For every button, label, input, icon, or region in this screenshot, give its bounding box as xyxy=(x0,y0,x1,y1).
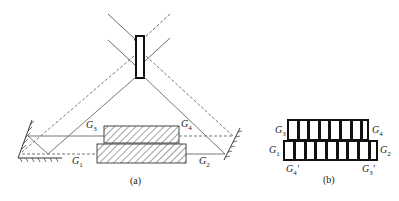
label-g3-a: G3 xyxy=(86,120,97,133)
right-mirror-hatching xyxy=(226,131,242,157)
outgoing-ray-1 xyxy=(144,14,170,38)
label-g1-a: G1 xyxy=(72,156,83,169)
interferometer-diagram xyxy=(0,0,399,201)
label-g4-b: G4 xyxy=(372,125,383,138)
left-mirror-1-hatching xyxy=(22,121,34,149)
outgoing-ray-2 xyxy=(144,38,170,62)
figure-b xyxy=(284,120,377,160)
label-g2-b: G2 xyxy=(380,145,391,158)
label-g3-prime-b: G3′ xyxy=(362,164,375,177)
label-g4-a: G4 xyxy=(181,119,192,132)
label-g1-b: G1 xyxy=(269,145,280,158)
label-g2-a: G2 xyxy=(199,156,210,169)
fringe-bottom-frame xyxy=(284,141,377,160)
left-mirror-1 xyxy=(18,120,32,158)
beam-splitter-plate xyxy=(136,36,144,78)
gauge-block-top xyxy=(104,126,179,143)
caption-a: (a) xyxy=(130,175,141,186)
label-g4-prime-b: G4′ xyxy=(286,164,299,177)
incoming-ray-1 xyxy=(108,14,136,40)
gauge-block-bottom xyxy=(97,144,186,163)
left-mirror-2-hatching xyxy=(20,158,58,162)
right-mirror xyxy=(224,128,240,160)
figure-a xyxy=(18,14,242,163)
label-g3-b: G3 xyxy=(275,125,286,138)
incoming-ray-2 xyxy=(108,40,136,66)
caption-b: (b) xyxy=(323,174,335,185)
